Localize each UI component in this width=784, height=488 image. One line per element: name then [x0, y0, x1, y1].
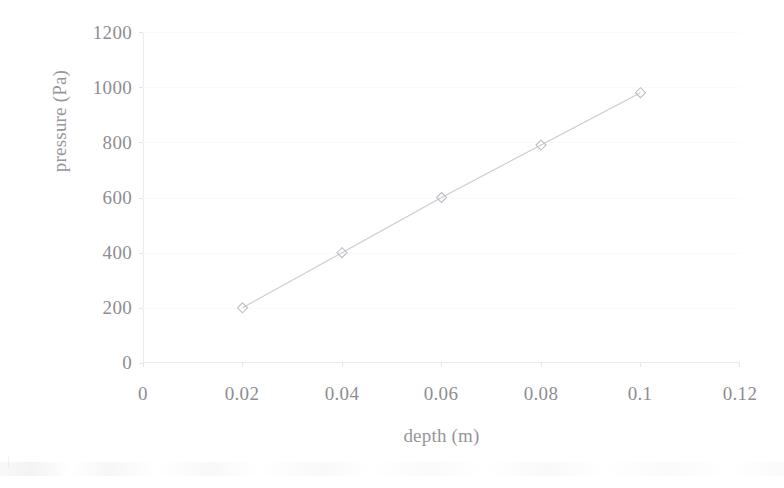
- y-tick-label: 400: [60, 243, 132, 262]
- x-tick-label: 0.06: [386, 383, 496, 405]
- y-tick-label: 200: [60, 298, 132, 317]
- y-tick-label: 1000: [60, 78, 132, 97]
- y-axis-tick-labels: 1200 1000 800 600 400 200 0: [60, 0, 132, 488]
- x-tick-label: 0.08: [486, 383, 596, 405]
- series-line: [243, 93, 641, 308]
- data-series: [143, 32, 740, 363]
- x-tick-mark: [541, 363, 542, 367]
- y-tick-label: 1200: [60, 23, 132, 42]
- x-tick-mark: [242, 363, 243, 367]
- scan-artifact-band: [0, 462, 784, 476]
- x-axis-title: depth (m): [143, 425, 740, 447]
- y-tick-label: 800: [60, 133, 132, 152]
- series-markers: [238, 88, 646, 313]
- x-tick-mark: [342, 363, 343, 367]
- y-tick-label: 0: [60, 353, 132, 372]
- x-tick-mark: [441, 363, 442, 367]
- x-tick-mark: [640, 363, 641, 367]
- pressure-vs-depth-chart: pressure (Pa) 1200 1000 800 600 400 200 …: [0, 0, 784, 488]
- y-tick-label: 600: [60, 188, 132, 207]
- scan-artifact-edge: [8, 456, 9, 468]
- x-tick-mark: [143, 363, 144, 367]
- x-tick-label: 0.1: [585, 383, 695, 405]
- x-tick-mark: [739, 363, 740, 367]
- plot-area: [143, 32, 740, 363]
- x-tick-label: 0: [88, 383, 198, 405]
- x-tick-label: 0.04: [287, 383, 397, 405]
- x-axis-tick-labels: 0 0.02 0.04 0.06 0.08 0.1 0.12: [0, 383, 784, 409]
- x-tick-label: 0.02: [187, 383, 297, 405]
- x-tick-label: 0.12: [685, 383, 784, 405]
